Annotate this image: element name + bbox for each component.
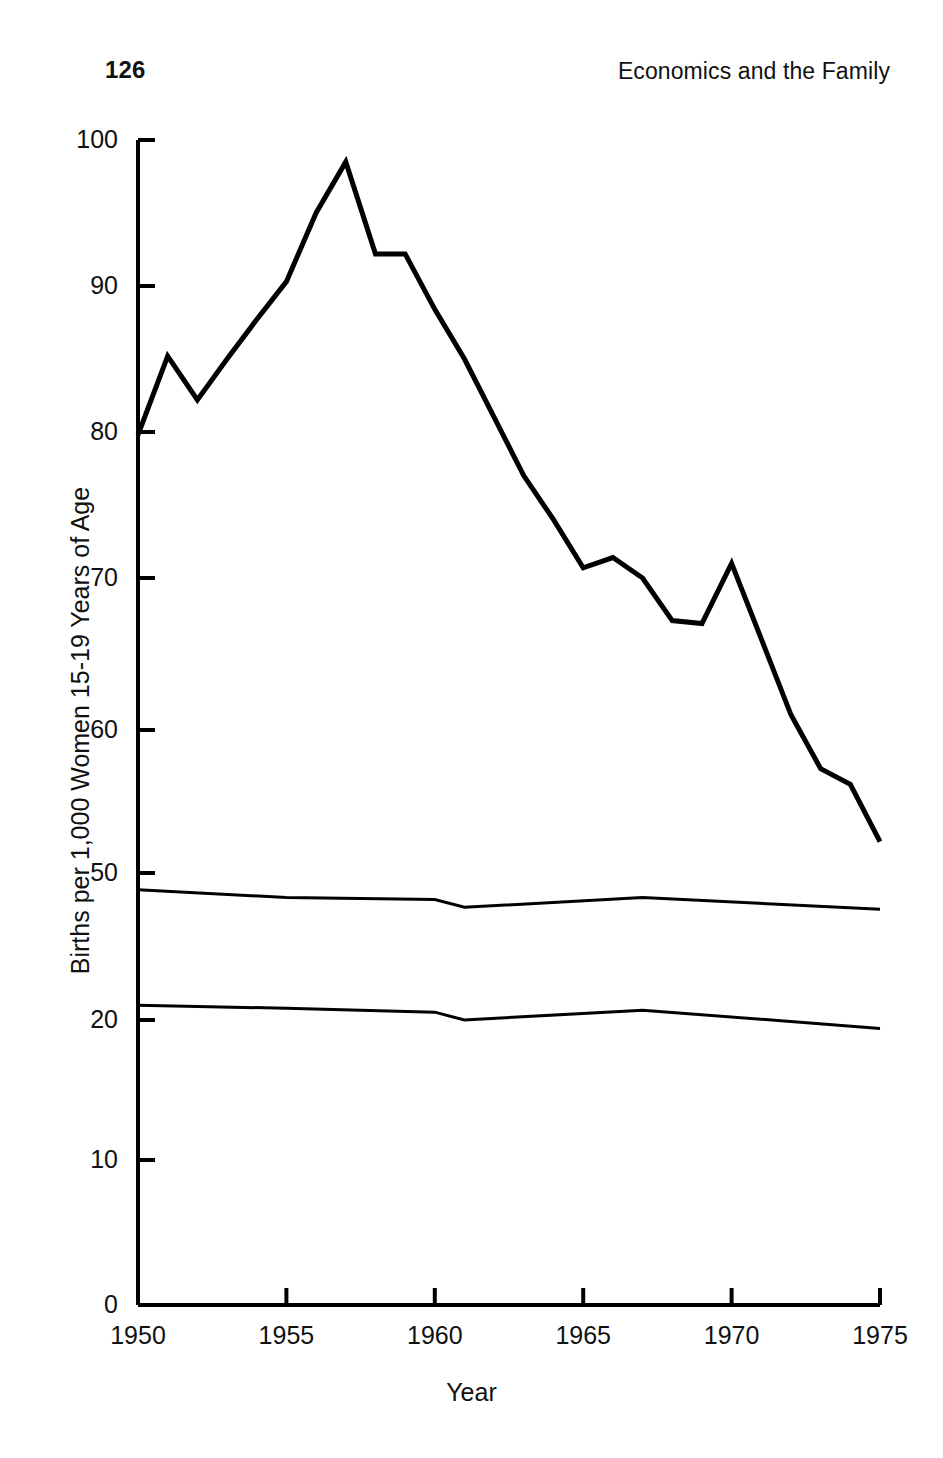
y-tick-label: 0 — [56, 1292, 118, 1317]
y-tick-label: 10 — [56, 1147, 118, 1172]
chart-series — [138, 162, 880, 1029]
y-tick-label: 90 — [56, 273, 118, 298]
x-tick-label: 1975 — [825, 1323, 935, 1348]
figure-line-chart: 010205060708090100 195019551960196519701… — [0, 0, 943, 1458]
x-tick-label: 1955 — [231, 1323, 341, 1348]
x-tick-label: 1950 — [83, 1323, 193, 1348]
y-axis-title: Births per 1,000 Women 15-19 Years of Ag… — [66, 431, 95, 1031]
y-tick-label: 100 — [56, 127, 118, 152]
x-tick-label: 1970 — [677, 1323, 787, 1348]
chart-ticks — [138, 140, 880, 1305]
series-line-1 — [138, 890, 880, 910]
page: 126 Economics and the Family 01020506070… — [0, 0, 943, 1458]
chart-plot-area — [0, 0, 943, 1458]
x-tick-label: 1965 — [528, 1323, 638, 1348]
x-tick-label: 1960 — [380, 1323, 490, 1348]
series-line-0 — [138, 162, 880, 842]
series-line-2 — [138, 1005, 880, 1028]
x-axis-title: Year — [0, 1378, 943, 1407]
chart-axes — [138, 140, 880, 1305]
